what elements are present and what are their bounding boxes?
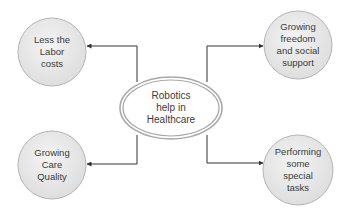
node-label-top-right: Growing freedom and social support [266, 18, 330, 72]
connector-top-left [87, 46, 137, 82]
connector-bottom-left [87, 135, 137, 164]
node-label-bottom-left: Growing Care Quality [20, 140, 84, 190]
connector-top-right [207, 46, 263, 82]
node-label-bottom-right: Performing some special tasks [265, 143, 331, 197]
center-label: Robotics help in Healthcare [126, 84, 216, 132]
connector-bottom-right [207, 135, 263, 163]
node-label-top-left: Less the Labor costs [20, 26, 84, 78]
